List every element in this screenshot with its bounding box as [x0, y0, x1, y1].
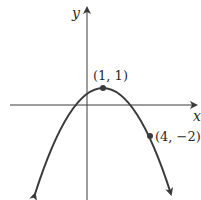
vertex-label: (1, 1) [93, 68, 128, 83]
parabola-curve [35, 88, 171, 194]
x-axis-label: x [193, 108, 201, 124]
y-axis-label: y [71, 5, 81, 21]
vertex-point [100, 85, 106, 91]
parabola-graph: y x (1, 1) (4, −2) [0, 0, 201, 200]
point-label: (4, −2) [155, 129, 201, 144]
point-4-neg2 [147, 133, 153, 139]
